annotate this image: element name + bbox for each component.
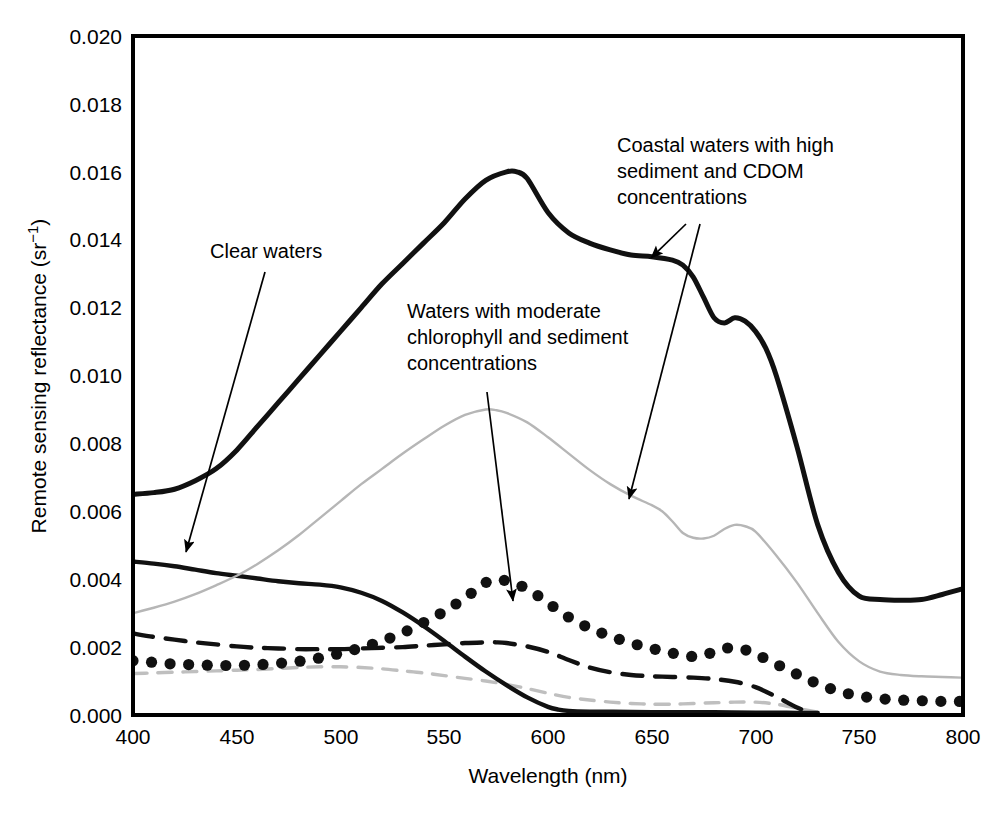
x-tick-label: 500 [323,725,358,748]
series-dot-marker [898,695,909,706]
y-tick-label: 0.008 [69,432,122,455]
annotation-label-coastal-high-sediment-cdom: Coastal waters with highsediment and CDO… [617,134,834,208]
series-dot-marker [331,649,342,660]
series-dot-marker [401,625,412,636]
y-tick-label: 0.016 [69,161,122,184]
series-dot-marker [579,620,590,631]
series-dot-marker [164,658,175,669]
series-dot-marker [450,598,461,609]
y-tick-label: 0.002 [69,636,122,659]
chart-canvas: 0.020 0.018 0.016 0.014 0.012 0.010 0.00… [0,0,998,814]
annotation-layer: Clear watersWaters with moderatechloroph… [186,134,834,601]
y-tick-label: 0.014 [69,228,122,251]
series-dot-marker [774,660,785,671]
annotation-arrow-coastal-high-sediment-cdom [651,224,686,258]
y-tick-label: 0.018 [69,93,122,116]
x-axis-title: Wavelength (nm) [468,764,627,787]
annotation-label-clear-waters: Clear waters [210,240,322,262]
series-dot-marker [880,694,891,705]
y-axis-title: Remote sensing reflectance (sr−1) [24,219,50,534]
series-dot-marker [202,660,213,671]
y-axis-title-exponent: −1 [24,226,41,243]
series-dot-marker [367,639,378,650]
series-dot-marker [668,648,679,659]
annotation-arrow2-coastal-high-sediment-cdom [629,224,700,499]
series-dot-marker [686,651,697,662]
x-tick-label: 650 [634,725,669,748]
figure-remote-sensing-reflectance-spectra: 0.020 0.018 0.016 0.014 0.012 0.010 0.00… [0,0,998,814]
series-dot-marker [313,653,324,664]
y-tick-label: 0.000 [69,704,122,727]
series-dot-marker [808,676,819,687]
series-dot-marker [532,590,543,601]
series-dot-marker [861,692,872,703]
series-dot-marker [276,658,287,669]
series-dot-marker [384,632,395,643]
series-dot-marker [547,601,558,612]
series-dot-marker [563,611,574,622]
annotation-arrow-moderate-chlorophyll [487,392,513,601]
series-line-dashed-gray [133,667,818,713]
plot-frame [133,36,963,715]
y-tick-label: 0.010 [69,364,122,387]
series-dot-marker [596,628,607,639]
series-dot-marker [757,652,768,663]
x-axis-tick-labels: 400 450 500 550 600 650 700 750 800 [115,725,980,748]
series-dot-marker [917,695,928,706]
series-dot-marker [435,608,446,619]
y-axis-title-main: Remote sensing reflectance (sr [27,243,50,534]
x-tick-label: 600 [530,725,565,748]
series-dot-marker [294,656,305,667]
x-tick-label: 400 [115,725,150,748]
series-dot-marker [704,648,715,659]
x-tick-label: 450 [219,725,254,748]
series-line-moderate-chlorophyll [133,409,963,677]
series-dot-marker [722,642,733,653]
series-dot-marker [825,683,836,694]
x-tick-label: 700 [738,725,773,748]
series-dot-marker [481,577,492,588]
annotation-label-moderate-chlorophyll: Waters with moderatechlorophyll and sedi… [407,300,629,374]
annotation-arrow-clear-waters [186,272,265,552]
series-dot-marker [239,660,250,671]
series-dot-marker [220,660,231,671]
x-tick-label: 800 [945,725,980,748]
series-dot-marker [650,644,661,655]
series-line-clear-waters [133,562,818,713]
y-axis-tick-labels: 0.020 0.018 0.016 0.014 0.012 0.010 0.00… [69,25,122,727]
series-dot-marker [935,696,946,707]
y-tick-label: 0.020 [69,25,122,48]
y-axis-title-close: ) [27,219,50,226]
series-line-coastal-high-sediment [133,171,963,600]
y-tick-label: 0.012 [69,296,122,319]
y-tick-label: 0.006 [69,500,122,523]
y-tick-label: 0.004 [69,568,122,591]
series-dot-marker [843,688,854,699]
series-dot-marker [418,617,429,628]
series-dot-marker [349,644,360,655]
series-dot-marker [632,639,643,650]
series-dot-marker [614,634,625,645]
x-tick-label: 550 [426,725,461,748]
series-dot-marker [257,659,268,670]
series-dot-marker [516,581,527,592]
series-dotted-markers [127,575,965,707]
series-dot-marker [183,659,194,670]
series-dot-marker [740,644,751,655]
x-tick-label: 750 [841,725,876,748]
series-dot-marker [499,575,510,586]
svg-text:Remote sensing reflectance (sr: Remote sensing reflectance (sr−1) [24,219,50,534]
series-dot-marker [791,668,802,679]
series-dot-marker [466,588,477,599]
series-dot-marker [146,657,157,668]
series-line-dashed-black [133,634,807,712]
